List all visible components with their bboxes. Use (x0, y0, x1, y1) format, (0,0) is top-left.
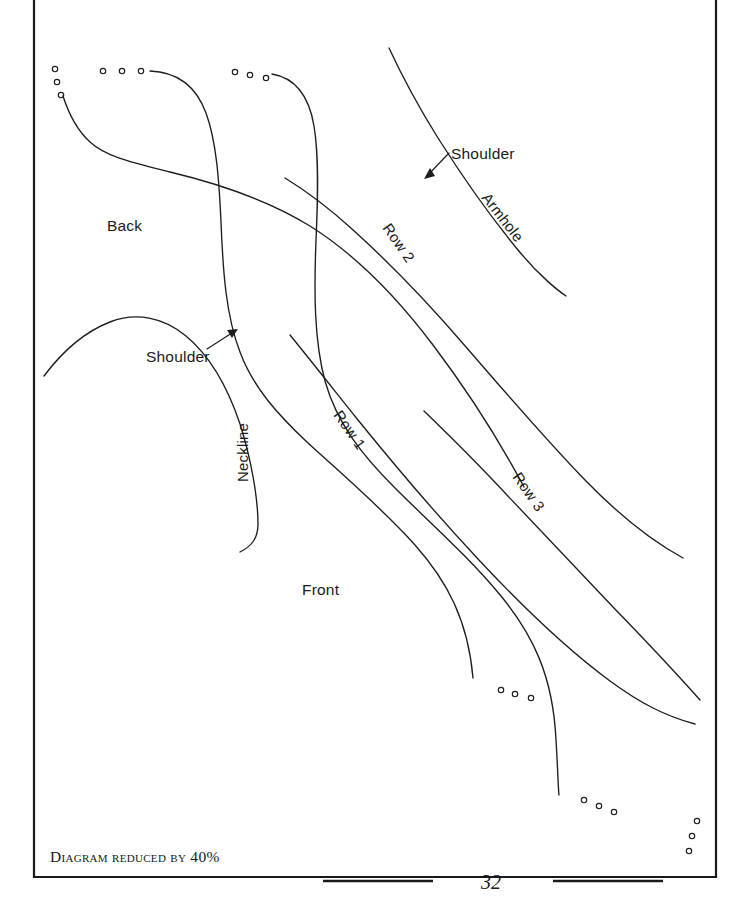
annotation-labels: Shoulder Shoulder Neckline Armhole Row 1… (146, 145, 548, 514)
label-row-3: Row 3 (510, 469, 549, 514)
diagram-caption: Diagram reduced by 40% (50, 848, 220, 865)
dots-top-mid-left (100, 68, 143, 73)
label-armhole: Armhole (479, 189, 528, 245)
frame-border (34, 0, 716, 877)
shoulder-front-arrow (424, 153, 449, 179)
page-number: 32 (480, 871, 501, 893)
dots-top-left (52, 66, 63, 97)
label-neckline: Neckline (234, 423, 251, 482)
stitch-dots (52, 66, 699, 853)
pattern-curves (44, 48, 700, 795)
label-row-2: Row 2 (380, 220, 419, 265)
label-row-1: Row 1 (331, 407, 370, 452)
row-2-curve (285, 178, 683, 558)
page-footer: 32 (323, 871, 663, 893)
row-1-curve (290, 335, 695, 724)
region-label-front: Front (302, 581, 340, 598)
label-shoulder-front: Shoulder (451, 145, 515, 162)
dots-bottom-mid (498, 687, 533, 700)
cable-strand-b (272, 74, 559, 795)
dots-bottom-right-inner (581, 797, 616, 814)
armhole-curve (389, 48, 566, 296)
region-label-back: Back (107, 217, 142, 234)
region-labels: Back Front (107, 217, 340, 598)
dots-top-mid-right (232, 69, 268, 80)
row-3-curve (424, 411, 700, 700)
label-shoulder-back: Shoulder (146, 348, 210, 365)
page-canvas: Back Front Shoulder Shoulder Neckline Ar… (0, 0, 741, 912)
shoulder-back-arrow (207, 329, 238, 349)
knitting-pattern-diagram: Back Front Shoulder Shoulder Neckline Ar… (0, 0, 741, 912)
page-frame (34, 0, 716, 877)
dots-bottom-right-outer (686, 818, 699, 853)
